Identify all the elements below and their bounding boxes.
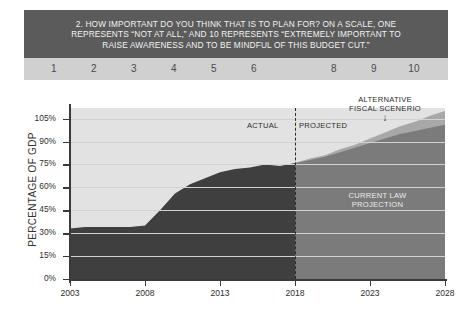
x-tick-label: 2028: [425, 288, 465, 298]
scale-option-5[interactable]: 5: [194, 63, 234, 75]
annotation-actual: ACTUAL: [247, 122, 278, 131]
alternative-scenario-arrow-icon: ↓: [379, 114, 391, 122]
question-line-1: 2. HOW IMPORTANT DO YOU THINK THAT IS TO…: [76, 19, 397, 30]
infographic-root: 2. HOW IMPORTANT DO YOU THINK THAT IS TO…: [0, 0, 472, 311]
x-tick-mark: [445, 280, 446, 286]
scale-option-3[interactable]: 3: [114, 63, 154, 75]
y-tick-label: 105%: [10, 114, 56, 123]
annotation-alternative-fiscal-scenario: ALTERNATIVEFISCAL SCENERIO: [333, 96, 437, 114]
y-axis-line: [69, 104, 71, 283]
y-tick-label: 90%: [10, 137, 56, 146]
gridline: [70, 210, 445, 211]
x-tick-label: 2008: [125, 288, 165, 298]
y-tick-mark: [63, 279, 69, 280]
question-header-bar: 2. HOW IMPORTANT DO YOU THINK THAT IS TO…: [24, 10, 448, 58]
y-tick-label: 15%: [10, 251, 56, 260]
gridline: [70, 233, 445, 234]
gridline: [70, 164, 445, 165]
scale-option-4[interactable]: 4: [154, 63, 194, 75]
y-tick-mark: [63, 142, 69, 143]
scale-option-9[interactable]: 9: [354, 63, 394, 75]
scale-option-1[interactable]: 1: [34, 63, 74, 75]
y-tick-mark: [63, 256, 69, 257]
scale-option-2[interactable]: 2: [74, 63, 114, 75]
rating-scale-row: 1 2 3 4 5 6 8 9 10: [24, 58, 448, 80]
y-tick-mark: [63, 233, 69, 234]
debt-area-chart: PERCENTAGE OF GDP 0%15%30%45%60%75%90%10…: [0, 92, 472, 311]
y-tick-label: 75%: [10, 159, 56, 168]
question-line-2: REPRESENTS “NOT AT ALL,” AND 10 REPRESEN…: [71, 29, 401, 40]
y-tick-mark: [63, 187, 69, 188]
y-tick-mark: [63, 119, 69, 120]
y-tick-mark: [63, 210, 69, 211]
annotation-current-law-projection: CURRENT LAWPROJECTION: [328, 192, 428, 210]
x-tick-mark: [145, 280, 146, 286]
gridline: [70, 187, 445, 188]
x-axis-line: [69, 279, 447, 281]
projection-divider-line: [295, 108, 296, 279]
scale-option-8[interactable]: 8: [314, 63, 354, 75]
annotation-projected: PROJECTED: [299, 122, 347, 131]
scale-option-6[interactable]: 6: [234, 63, 274, 75]
x-tick-label: 2018: [275, 288, 315, 298]
x-tick-mark: [370, 280, 371, 286]
gridline: [70, 256, 445, 257]
gridline: [70, 142, 445, 143]
y-tick-label: 45%: [10, 205, 56, 214]
y-tick-label: 30%: [10, 228, 56, 237]
x-tick-mark: [70, 280, 71, 286]
x-tick-label: 2003: [50, 288, 90, 298]
y-tick-label: 0%: [10, 274, 56, 283]
x-tick-label: 2023: [350, 288, 390, 298]
y-tick-label: 60%: [10, 182, 56, 191]
scale-option-10[interactable]: 10: [394, 63, 434, 75]
x-tick-label: 2013: [200, 288, 240, 298]
x-tick-mark: [220, 280, 221, 286]
annotation-current-law-line-2: PROJECTION: [328, 201, 428, 210]
x-tick-mark: [295, 280, 296, 286]
area-series-actual: [70, 163, 295, 279]
question-line-3: RAISE AWARENESS AND TO BE MINDFUL OF THI…: [102, 40, 370, 51]
y-tick-mark: [63, 164, 69, 165]
